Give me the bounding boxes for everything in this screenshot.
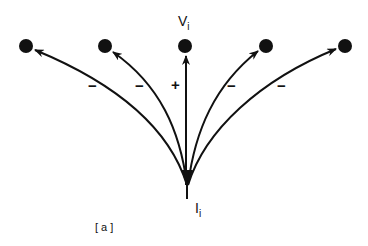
weight-sign-1: − <box>88 78 97 93</box>
weight-sign-2: − <box>135 78 144 93</box>
weight-sign-3: + <box>171 77 180 92</box>
target-node-label-main: V <box>178 13 187 29</box>
arrow-to-node-5 <box>188 49 336 185</box>
node-1 <box>19 39 33 53</box>
target-node-label-subscript: i <box>187 21 189 32</box>
arrow-to-node-1 <box>35 50 187 185</box>
source-node-label: Ii <box>195 201 201 219</box>
weight-sign-5: − <box>277 78 286 93</box>
node-4 <box>259 39 273 53</box>
source-node-label-subscript: i <box>199 208 201 219</box>
weight-sign-4: − <box>227 78 236 93</box>
figure-caption: [ a ] <box>95 222 113 233</box>
node-5 <box>338 39 352 53</box>
weighted-connection-diagram <box>0 0 368 246</box>
arrow-to-node-4 <box>188 51 258 185</box>
target-node-label: Vi <box>178 14 190 32</box>
node-2 <box>98 39 112 53</box>
node-3-vi <box>178 39 192 53</box>
arrow-to-node-2 <box>113 52 187 185</box>
